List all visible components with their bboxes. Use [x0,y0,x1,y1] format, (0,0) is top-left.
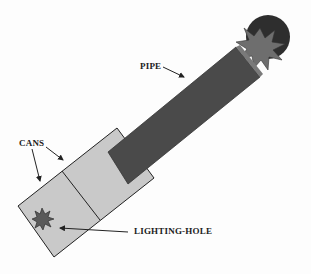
cans-label: CANS [19,138,44,148]
pipe-arrow [163,67,184,77]
pipe-body [108,47,260,184]
pipe-label: PIPE [140,61,161,71]
diagram-canvas: PIPE CANS LIGHTING-HOLE [0,0,311,274]
lighting-hole-label: LIGHTING-HOLE [134,226,212,236]
cans-arrow-2 [46,147,63,160]
cans-arrow-1 [32,149,40,181]
